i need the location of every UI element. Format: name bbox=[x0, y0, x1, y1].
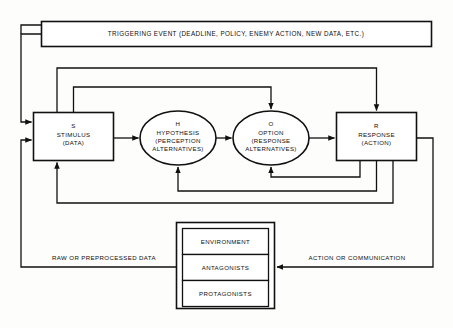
edge-stimulus-to-response-upper bbox=[57, 68, 377, 113]
node-response-letter: R bbox=[374, 122, 379, 129]
edge-world-to-triggering-event bbox=[21, 25, 42, 34]
node-stimulus-letter: S bbox=[71, 122, 75, 129]
node-response-qualifier: (ACTION) bbox=[362, 139, 392, 146]
node-response-name: RESPONSE bbox=[358, 131, 395, 138]
triggering-event-label: TRIGGERING EVENT (DEADLINE, POLICY, ENEM… bbox=[108, 30, 364, 38]
world-stack-label-antagonists: ANTAGONISTS bbox=[202, 264, 250, 271]
node-hypothesis-qualifier-1: (PERCEPTION bbox=[155, 137, 201, 144]
edge-triggering-event-to-stimulus bbox=[21, 34, 42, 122]
edge-response-to-stimulus-lower bbox=[57, 161, 393, 204]
node-hypothesis-letter: H bbox=[176, 120, 181, 127]
world-stack-label-environment: ENVIRONMENT bbox=[201, 238, 250, 245]
node-option-qualifier-1: (RESPONSE bbox=[251, 137, 290, 144]
edge-label-raw-data: RAW OR PREPROCESSED DATA bbox=[52, 254, 156, 261]
node-stimulus-name: STIMULUS bbox=[57, 131, 91, 138]
edge-stimulus-to-option-upper bbox=[74, 87, 272, 113]
node-option-qualifier-2: ALTERNATIVES) bbox=[245, 145, 296, 152]
edge-label-action-communication: ACTION OR COMMUNICATION bbox=[308, 254, 405, 261]
world-stack-label-protagonists: PROTAGONISTS bbox=[199, 290, 252, 297]
node-hypothesis-name: HYPOTHESIS bbox=[157, 129, 200, 136]
diagram-canvas: TRIGGERING EVENT (DEADLINE, POLICY, ENEM… bbox=[0, 0, 453, 328]
shor-model-diagram: TRIGGERING EVENT (DEADLINE, POLICY, ENEM… bbox=[0, 0, 453, 328]
node-stimulus-qualifier: (DATA) bbox=[63, 139, 85, 146]
node-option-name: OPTION bbox=[258, 129, 283, 136]
node-hypothesis-qualifier-2: ALTERNATIVES) bbox=[152, 145, 203, 152]
node-option-letter: O bbox=[268, 120, 273, 127]
